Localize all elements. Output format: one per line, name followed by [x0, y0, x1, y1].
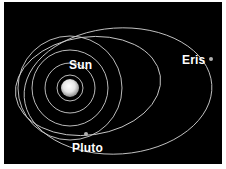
pluto-label: Pluto [72, 142, 103, 154]
eris-label: Eris [182, 54, 205, 66]
pluto-orbit [9, 27, 167, 144]
pluto-dot [84, 132, 88, 136]
orbit-diagram [4, 2, 222, 164]
sun-icon [61, 79, 79, 97]
eris-orbit [20, 22, 216, 161]
eris-dot [209, 57, 213, 61]
solar-system-diagram: Sun Pluto Eris [4, 2, 222, 164]
sun-label: Sun [69, 59, 92, 71]
